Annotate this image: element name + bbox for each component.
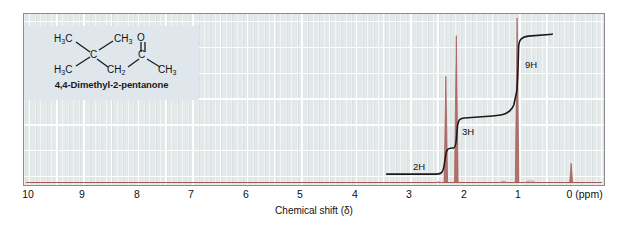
integral-label-9h: 9H [525,59,537,70]
structure-inset-panel: H3C CH3 O C C H3C CH2 CH3 4,4-Dimethyl-2… [24,26,199,100]
atom-label-ch3-top: CH3 [114,33,132,45]
atom-label-ch3-right: CH3 [158,64,176,76]
integral-label-2h: 2H [413,161,425,172]
x-tick-5: 5 [297,188,303,200]
atom-label-c-quaternary: C [90,49,97,60]
x-axis: 10 9 8 7 6 5 4 3 2 1 0 (ppm) Chemical sh… [0,186,628,227]
atom-label-ch2: CH2 [107,64,125,76]
nmr-spectrum-figure: 2H 3H 9H [0,0,628,227]
x-axis-title: Chemical shift (δ) [0,205,628,216]
x-tick-1: 1 [515,188,521,200]
x-tick-2: 2 [461,188,467,200]
atom-label-c-carbonyl: C [138,49,145,60]
x-tick-8: 8 [134,188,140,200]
x-tick-3: 3 [406,188,412,200]
x-tick-0-ppm: 0 (ppm) [566,188,602,200]
atom-label-h3c-bottom: H3C [54,64,72,76]
x-tick-9: 9 [79,188,85,200]
x-tick-6: 6 [243,188,249,200]
x-tick-4: 4 [352,188,358,200]
plot-area: 2H 3H 9H [23,13,605,186]
x-tick-7: 7 [188,188,194,200]
x-tick-10: 10 [22,188,34,200]
atom-label-o: O [137,32,145,43]
atom-label-h3c-top: H3C [54,33,72,45]
integral-label-3h: 3H [462,126,474,137]
compound-name-caption: 4,4-Dimethyl-2-pentanone [24,79,199,90]
